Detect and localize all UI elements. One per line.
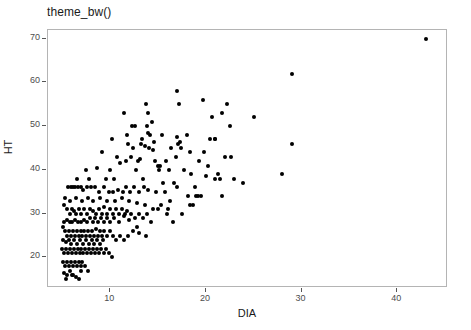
data-point	[99, 247, 103, 251]
x-tick-mark	[205, 288, 206, 292]
y-tick-label: 60	[14, 75, 40, 85]
data-point	[84, 168, 88, 172]
data-point	[69, 242, 73, 246]
data-point	[144, 234, 148, 238]
data-point	[127, 199, 131, 203]
data-point	[186, 194, 190, 198]
data-point	[202, 150, 206, 154]
data-point	[111, 190, 115, 194]
data-point	[204, 174, 208, 178]
data-point	[113, 199, 117, 203]
data-point	[129, 212, 133, 216]
data-point	[229, 155, 233, 159]
y-tick-mark	[42, 256, 46, 257]
data-point	[87, 177, 91, 181]
data-point	[163, 190, 167, 194]
data-point	[95, 166, 99, 170]
data-point	[223, 155, 227, 159]
data-point	[99, 216, 103, 220]
y-tick-label: 70	[14, 32, 40, 42]
data-point	[122, 111, 126, 115]
data-point	[154, 190, 158, 194]
data-point	[140, 137, 144, 141]
data-point	[102, 185, 106, 189]
data-point	[135, 225, 139, 229]
data-point	[80, 199, 84, 203]
data-point	[150, 120, 154, 124]
data-point	[169, 146, 173, 150]
x-tick-mark	[301, 288, 302, 292]
data-point	[122, 214, 126, 218]
data-point	[166, 207, 170, 211]
data-point	[108, 220, 112, 224]
data-point	[146, 131, 150, 135]
data-point	[82, 207, 86, 211]
data-point	[141, 216, 145, 220]
y-axis-title: HT	[2, 127, 14, 167]
data-point	[208, 137, 212, 141]
data-point	[104, 247, 108, 251]
y-tick-label: 20	[14, 250, 40, 260]
scatter-plot-figure: theme_bw() 10203040 203040506070 DIA HT	[0, 0, 471, 330]
data-point	[92, 242, 96, 246]
data-point	[86, 269, 90, 273]
data-point	[167, 168, 171, 172]
y-tick-label: 50	[14, 119, 40, 129]
data-point	[143, 203, 147, 207]
data-point	[102, 229, 106, 233]
data-point	[79, 269, 83, 273]
data-point	[102, 220, 106, 224]
x-tick-label: 10	[89, 293, 129, 303]
data-point	[97, 207, 101, 211]
data-point	[158, 164, 162, 168]
data-point	[157, 168, 161, 172]
x-axis-title: DIA	[47, 307, 447, 319]
data-point	[137, 212, 141, 216]
data-point	[105, 216, 109, 220]
data-point	[124, 159, 128, 163]
data-point	[138, 157, 142, 161]
plot-panel	[47, 29, 447, 287]
data-point	[110, 137, 114, 141]
data-point	[63, 196, 67, 200]
data-point	[188, 150, 192, 154]
data-point	[216, 172, 220, 176]
data-point	[127, 218, 131, 222]
data-point	[197, 159, 201, 163]
data-point	[108, 168, 112, 172]
data-point	[100, 234, 104, 238]
data-point	[79, 212, 83, 216]
data-point	[98, 196, 102, 200]
data-point	[126, 142, 130, 146]
data-point	[121, 190, 125, 194]
data-point	[93, 185, 97, 189]
data-point	[97, 251, 101, 255]
data-point	[68, 199, 72, 203]
data-point	[164, 159, 168, 163]
y-tick-mark	[42, 213, 46, 214]
data-point	[143, 144, 147, 148]
data-point	[75, 177, 79, 181]
data-point	[175, 135, 179, 139]
data-point	[424, 37, 428, 41]
y-tick-mark	[42, 81, 46, 82]
y-tick-mark	[42, 38, 46, 39]
data-point	[151, 148, 155, 152]
data-point	[201, 98, 205, 102]
data-point	[146, 111, 150, 115]
data-point	[116, 188, 120, 192]
data-point	[182, 168, 186, 172]
data-point	[118, 161, 122, 165]
data-point	[141, 177, 145, 181]
y-tick-label: 40	[14, 163, 40, 173]
data-point	[290, 142, 294, 146]
data-point	[93, 216, 97, 220]
data-point	[115, 155, 119, 159]
data-point	[105, 234, 109, 238]
data-point	[122, 238, 126, 242]
data-point	[232, 177, 236, 181]
data-point	[81, 242, 85, 246]
data-point	[228, 124, 232, 128]
data-point	[118, 234, 122, 238]
data-point	[65, 207, 69, 211]
